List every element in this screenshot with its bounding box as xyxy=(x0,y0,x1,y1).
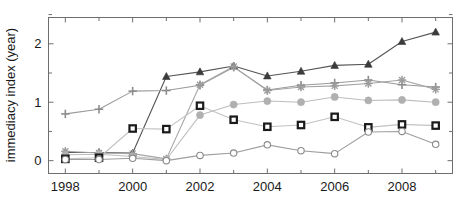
x-tick-label: 2004 xyxy=(253,179,282,194)
y-tick-label: 1 xyxy=(34,95,41,110)
x-tick-label: 2008 xyxy=(388,179,417,194)
data-point-series-circle-open xyxy=(163,157,169,163)
data-point-series-square-black xyxy=(163,126,169,132)
data-point-series-star-gray xyxy=(431,85,439,93)
data-point-series-star-gray xyxy=(364,79,372,87)
data-point-series-star-gray xyxy=(229,62,237,70)
data-point-series-square-black xyxy=(197,103,203,109)
data-point-series-circle-open xyxy=(230,150,236,156)
data-point-series-circle-open xyxy=(62,156,68,162)
data-point-series-square-black xyxy=(399,121,405,127)
data-point-series-triangle-dark xyxy=(365,60,373,67)
data-point-series-circle-open xyxy=(298,148,304,154)
series-markers-group xyxy=(61,28,440,164)
x-axis-tick-labels: 199820002002200420062008 xyxy=(51,179,417,194)
data-point-series-circle-filled xyxy=(365,97,372,104)
x-tick-label: 2006 xyxy=(320,179,349,194)
data-point-series-circle-open xyxy=(197,152,203,158)
data-point-series-plus-gray xyxy=(95,105,103,113)
y-tick-label: 0 xyxy=(34,153,41,168)
data-point-series-circle-filled xyxy=(331,93,338,100)
x-tick-label: 2000 xyxy=(118,179,147,194)
data-point-series-plus-gray xyxy=(162,86,170,94)
plot-frame xyxy=(49,18,453,174)
data-point-series-square-black xyxy=(264,124,270,130)
data-point-series-circle-open xyxy=(399,128,405,134)
y-tick-label: 2 xyxy=(34,36,41,51)
series-line-series-star-gray xyxy=(65,67,435,159)
data-point-series-circle-filled xyxy=(297,99,304,106)
data-point-series-circle-filled xyxy=(230,101,237,108)
data-point-series-circle-filled xyxy=(432,99,439,106)
data-point-series-circle-open xyxy=(432,141,438,147)
data-point-series-circle-open xyxy=(129,155,135,161)
data-point-series-circle-open xyxy=(365,129,371,135)
immediacy-index-line-chart: 199820002002200420062008 012 immediacy i… xyxy=(0,0,472,218)
data-point-series-circle-open xyxy=(96,156,102,162)
y-axis-tick-labels: 012 xyxy=(34,36,41,168)
x-tick-label: 2002 xyxy=(186,179,215,194)
x-axis-ticks xyxy=(65,18,435,174)
data-point-series-triangle-dark xyxy=(432,28,440,35)
data-point-series-square-black xyxy=(230,117,236,123)
x-tick-label: 1998 xyxy=(51,179,80,194)
data-point-series-circle-open xyxy=(331,150,337,156)
data-point-series-star-gray xyxy=(196,80,204,88)
data-point-series-square-black xyxy=(432,122,438,128)
data-point-series-circle-open xyxy=(264,142,270,148)
data-point-series-circle-filled xyxy=(398,96,405,103)
series-line-series-circle-filled xyxy=(65,97,435,160)
series-line-series-triangle-dark xyxy=(65,32,435,153)
data-point-series-square-black xyxy=(129,125,135,131)
data-point-series-circle-filled xyxy=(264,97,271,104)
data-point-series-star-gray xyxy=(398,76,406,84)
data-point-series-plus-gray xyxy=(128,87,136,95)
y-axis-title: immediacy index (year) xyxy=(3,28,18,162)
data-point-series-square-black xyxy=(298,122,304,128)
data-point-series-star-gray xyxy=(330,82,338,90)
data-point-series-star-gray xyxy=(263,86,271,94)
data-point-series-plus-gray xyxy=(61,110,69,118)
series-line-series-plus-gray xyxy=(65,67,435,114)
data-point-series-circle-filled xyxy=(196,111,203,118)
y-axis-ticks xyxy=(49,15,453,161)
chart-figure: 199820002002200420062008 012 immediacy i… xyxy=(0,0,472,218)
data-point-series-star-gray xyxy=(297,83,305,91)
data-point-series-square-black xyxy=(331,114,337,120)
series-lines-group xyxy=(65,32,435,161)
